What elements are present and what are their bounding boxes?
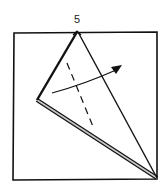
flap-right-edge — [78, 32, 157, 178]
paper-square — [13, 32, 157, 180]
arrowhead-icon — [111, 65, 122, 74]
flap-left-edge — [37, 32, 77, 100]
diagram-canvas — [0, 0, 166, 194]
origami-diagram: 5 — [0, 0, 166, 194]
valley-fold-line — [67, 63, 94, 129]
fold-arrow — [52, 70, 116, 93]
